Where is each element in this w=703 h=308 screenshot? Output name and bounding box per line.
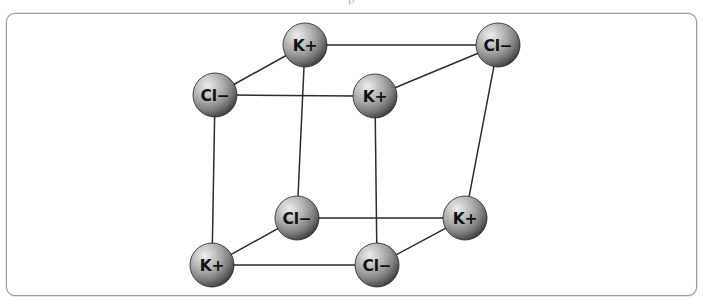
ion-label: Cl− xyxy=(362,257,391,275)
bond-back-right-vertical xyxy=(469,64,495,200)
ion-front-top-left: Cl− xyxy=(193,73,237,117)
ion-back-top-left: K+ xyxy=(283,23,327,67)
ion-back-top-right: Cl− xyxy=(476,23,520,67)
bond-depth-top-right xyxy=(393,52,481,88)
bond-front-left-vertical xyxy=(212,114,214,246)
bond-depth-bottom-right xyxy=(394,227,448,256)
ion-front-bottom-left: K+ xyxy=(190,243,234,287)
ion-label: Cl− xyxy=(200,87,229,105)
bond-front-top xyxy=(234,95,356,96)
crystal-lattice-diagram: K+Cl−Cl−K+Cl−K+K+Cl− xyxy=(0,0,703,308)
ion-back-bottom-left: Cl− xyxy=(275,196,319,240)
ion-back-bottom-right: K+ xyxy=(443,196,487,240)
ion-label: Cl− xyxy=(282,210,311,228)
bond-back-left-vertical xyxy=(298,64,304,199)
bond-depth-top-left xyxy=(232,54,289,86)
ion-label: K+ xyxy=(453,210,478,228)
ions-layer: K+Cl−Cl−K+Cl−K+K+Cl− xyxy=(190,23,520,287)
bond-depth-bottom-left xyxy=(229,227,281,256)
ion-label: K+ xyxy=(200,257,225,275)
ion-front-bottom-right: Cl− xyxy=(355,243,399,287)
ion-label: K+ xyxy=(293,37,318,55)
ion-label: K+ xyxy=(363,88,388,106)
ion-label: Cl− xyxy=(483,37,512,55)
bond-front-right-vertical xyxy=(375,115,377,246)
ion-front-top-right: K+ xyxy=(353,74,397,118)
